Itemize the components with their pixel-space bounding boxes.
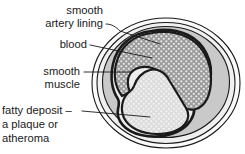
label-blood: blood bbox=[60, 38, 87, 50]
labels-group: smooth artery lining blood smooth muscle… bbox=[2, 4, 103, 144]
label-smooth-muscle-line1: smooth bbox=[43, 65, 80, 77]
label-smooth-artery-lining-line2: artery lining bbox=[45, 17, 103, 29]
label-smooth-muscle-line2: muscle bbox=[45, 78, 80, 90]
label-fatty-deposit-line1: fatty deposit – bbox=[2, 104, 72, 116]
label-smooth-artery-lining-line1: smooth bbox=[66, 4, 103, 16]
label-fatty-deposit-line3: atheroma bbox=[2, 132, 50, 144]
label-fatty-deposit-line2: a plaque or bbox=[2, 118, 58, 130]
artery-cross-section-illustration: smooth artery lining blood smooth muscle… bbox=[0, 0, 245, 154]
artery-diagram-figure: smooth artery lining blood smooth muscle… bbox=[0, 0, 245, 154]
